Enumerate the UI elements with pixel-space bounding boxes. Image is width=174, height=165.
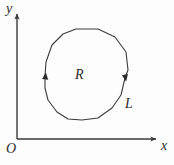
y-axis-label: y [6,2,12,16]
region-label-R: R [75,68,84,82]
math-figure: y x O R L [0,0,174,165]
curve-label-L: L [125,97,133,111]
left-orientation-arrow [42,72,49,80]
right-orientation-arrow [122,74,129,82]
x-axis-label: x [161,139,167,153]
closed-curve-L [45,29,128,120]
figure-canvas [0,0,174,165]
origin-label: O [6,142,16,156]
